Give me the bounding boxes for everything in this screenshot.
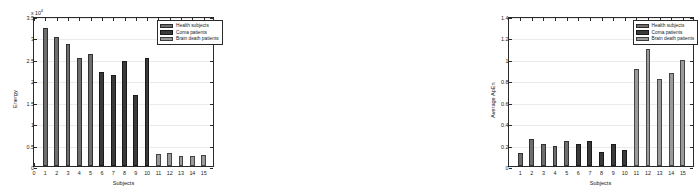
bar-brain_death-subject-15 [680,60,685,166]
x-tick-label: 12 [167,170,173,176]
y-tick-mark [210,168,213,169]
bar-healthy-subject-3 [66,44,71,166]
x-tick-label: 10 [144,170,150,176]
legend-item-coma: Coma patients [160,30,219,36]
bar-healthy-subject-5 [564,141,569,166]
y-tick-mark [210,18,213,19]
bar-healthy-subject-4 [77,58,82,166]
x-tick-label: 3 [66,170,69,176]
x-tick-label: 2 [530,170,533,176]
x-tick-mark [520,18,521,21]
y-tick-mark [34,39,37,40]
x-tick-mark [625,18,626,21]
legend-swatch-coma [636,30,649,35]
y-tick-mark [34,82,37,83]
y-tick-mark [509,61,512,62]
y-tick-label: 1 [479,58,509,64]
bar-coma-subject-8 [599,152,604,166]
y-tick-mark [34,125,37,126]
bar-brain_death-subject-13 [179,156,184,166]
x-tick-label: 4 [78,170,81,176]
y-tick-mark [509,104,512,105]
y-tick-label: 1.5 [4,101,34,107]
x-tick-mark [91,18,92,21]
y-tick-mark [210,82,213,83]
y-tick-label: 0.5 [4,144,34,150]
legend-label-coma: Coma patients [176,30,207,35]
x-tick-label: 8 [123,170,126,176]
legend-item-healthy: Health subjects [160,23,219,29]
y-tick-label: 1.4 [479,15,509,21]
x-tick-mark [102,18,103,21]
legend-label-brain_death: Brain death patients [652,36,695,41]
bar-brain_death-subject-15 [201,155,206,166]
x-tick-mark [125,18,126,21]
bar-brain_death-subject-12 [646,49,651,166]
y-tick-mark [34,61,37,62]
y-tick-mark [210,104,213,105]
bar-healthy-subject-3 [541,144,546,167]
y-exponent-power: 4 [41,8,43,13]
x-tick-mark [567,18,568,21]
legend-label-brain_death: Brain death patients [176,36,219,41]
x-tick-label: 4 [554,170,557,176]
x-tick-label: 15 [680,170,686,176]
y-tick-label: 3 [4,36,34,42]
x-tick-label: 15 [201,170,207,176]
bar-brain_death-subject-13 [657,79,662,166]
x-tick-label: 3 [542,170,545,176]
x-tick-label: 7 [588,170,591,176]
y-gridline [509,125,693,126]
bar-coma-subject-10 [145,58,150,166]
bar-healthy-subject-2 [529,139,534,166]
x-tick-label: 5 [89,170,92,176]
y-tick-mark [210,125,213,126]
x-tick-mark [45,18,46,21]
bar-healthy-subject-5 [88,54,93,166]
x-tick-label: 14 [668,170,674,176]
y-gridline [34,18,213,19]
legend-item-coma: Coma patients [636,30,695,36]
y-tick-label: 0 [4,165,34,171]
x-tick-mark [79,18,80,21]
bar-brain_death-subject-14 [190,156,195,166]
y-tick-label: 1.2 [479,36,509,42]
x-tick-label: 9 [612,170,615,176]
y-gridline [509,18,693,19]
bar-brain_death-subject-12 [167,153,172,166]
bar-coma-subject-10 [622,150,627,166]
y-tick-mark [34,104,37,105]
y-tick-label: 2 [4,79,34,85]
chart-panel-apen: Average ApEn Subjects 00.20.40.60.811.21… [240,0,480,194]
x-tick-mark [613,18,614,21]
x-tick-label: 5 [565,170,568,176]
x-tick-label: 8 [600,170,603,176]
x-tick-label: 11 [156,170,162,176]
legend-swatch-brain_death [160,37,173,42]
x-tick-label: 0 [33,170,36,176]
y-gridline [509,61,693,62]
legend-swatch-brain_death [636,37,649,42]
y-tick-mark [690,168,693,169]
x-tick-label: 2 [55,170,58,176]
y-tick-mark [210,147,213,148]
legend-item-brain_death: Brain death patients [160,36,219,42]
x-tick-mark [602,18,603,21]
y-tick-mark [690,18,693,19]
x-tick-mark [590,18,591,21]
x-tick-mark [555,18,556,21]
legend-swatch-healthy [636,24,649,29]
y-gridline [509,104,693,105]
bar-healthy-subject-1 [43,28,48,166]
bar-coma-subject-7 [111,75,116,166]
y-tick-label: 2.5 [4,58,34,64]
y-tick-label: 0.2 [479,144,509,150]
y-tick-label: 1 [4,122,34,128]
y-tick-mark [509,168,512,169]
legend-label-healthy: Health subjects [652,23,685,28]
bar-coma-subject-8 [122,61,127,166]
x-tick-mark [543,18,544,21]
x-tick-label: 10 [622,170,628,176]
bar-brain_death-subject-11 [156,154,161,166]
